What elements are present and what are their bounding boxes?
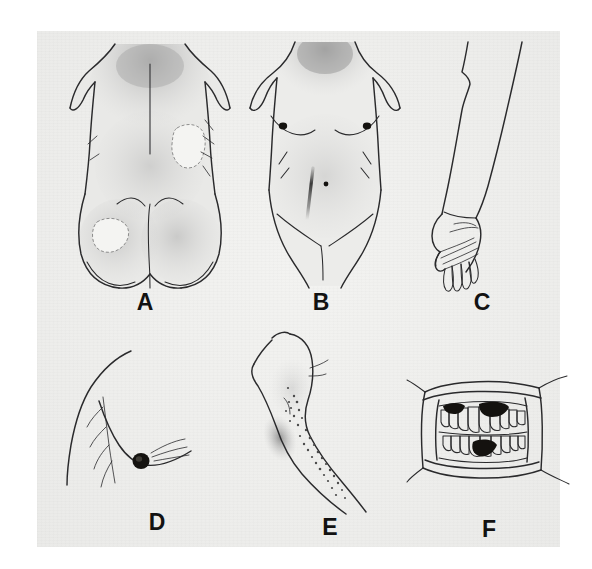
panel-f-pigmented-patch-upper-left bbox=[443, 403, 465, 414]
panel-b-umbilicus bbox=[324, 182, 329, 187]
panel-d-nipple bbox=[136, 456, 142, 462]
panel-f-pigmented-patch-lower-center bbox=[472, 440, 497, 457]
panel-f-retractor-handles bbox=[407, 376, 569, 484]
panel-e-arm-macules: E bbox=[232, 326, 407, 521]
panel-f-occlusal-line bbox=[439, 432, 527, 435]
panel-e-upper-shading bbox=[270, 358, 314, 418]
panel-c-forearm-and-hand: C bbox=[422, 36, 552, 296]
panel-b-label: B bbox=[301, 289, 341, 316]
panel-c-wrist-line bbox=[444, 212, 476, 218]
panel-c-label: C bbox=[462, 289, 502, 316]
panel-b-nipple-left bbox=[279, 123, 287, 130]
panel-b-nipple-right bbox=[363, 123, 371, 130]
panel-f-lower-gingiva bbox=[439, 458, 527, 463]
panel-a-label: A bbox=[125, 289, 165, 316]
panel-d-chest-contour bbox=[67, 351, 131, 485]
panel-f-oral-cavity: F bbox=[407, 366, 572, 516]
panel-b-shading bbox=[237, 33, 412, 296]
panel-f-pigmented-patch-upper-center bbox=[479, 402, 509, 417]
panel-a-posterior-torso: A bbox=[57, 36, 242, 296]
panel-d-breast-profile: D bbox=[57, 341, 237, 516]
panel-e-label: E bbox=[310, 514, 350, 541]
panel-f-label: F bbox=[469, 516, 509, 543]
panel-d-label: D bbox=[137, 509, 177, 536]
figure-root: A bbox=[0, 0, 592, 569]
figure-plate: A bbox=[37, 31, 560, 547]
panel-b-anterior-torso: B bbox=[237, 36, 412, 296]
panel-c-arm-outline bbox=[442, 42, 522, 218]
